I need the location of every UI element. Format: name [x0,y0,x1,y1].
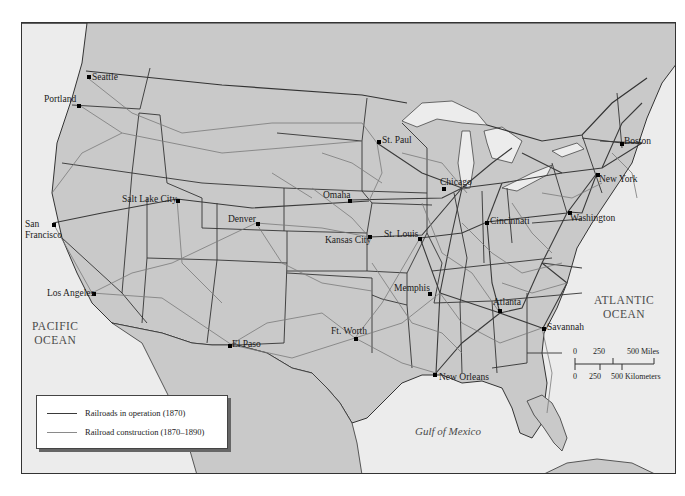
city-label-washington: Washington [570,214,615,224]
city-label-cincinnati: Cincinnati [490,217,530,227]
city-dot-st-paul [377,140,381,144]
legend-label: Railroad construction (1870–1890) [85,427,204,437]
city-label-kansas-city: Kansas City [325,236,371,246]
city-label-st-louis: St. Louis [384,230,418,240]
cuba-land [542,459,657,474]
atlantic-line1: ATLANTIC [594,293,654,307]
city-label-st-paul: St. Paul [382,136,412,146]
pacific-line1: PACIFIC [32,319,79,333]
city-label-el-paso: El Paso [232,340,261,350]
city-dot-seattle [87,75,91,79]
city-label-denver: Denver [228,215,256,225]
gulf-of-mexico-label: Gulf of Mexico [415,425,481,437]
sf-line1: San [25,219,62,230]
scale-miles-250: 250 [593,347,605,356]
city-label-new-york: New York [599,175,638,185]
city-label-new-orleans: New Orleans [439,373,489,383]
city-dot-ft-worth [354,337,358,341]
pacific-line2: OCEAN [32,333,79,347]
city-label-los-angeles: Los Angeles [47,289,94,299]
scale-km-500: 500 Kilometers [611,372,661,381]
scale-km-0: 0 [573,372,577,381]
atlantic-line2: OCEAN [594,307,654,321]
city-dot-cincinnati [485,221,489,225]
scale-ruler-icon [567,357,676,371]
legend-label: Railroads in operation (1870) [85,408,185,418]
city-label-boston: Boston [624,137,651,147]
city-dot-savannah [542,327,546,331]
city-label-portland: Portland [44,95,76,105]
legend-line-light-icon [47,432,77,433]
city-label-memphis: Memphis [394,284,430,294]
pacific-ocean-label: PACIFIC OCEAN [32,319,79,348]
city-label-omaha: Omaha [323,191,350,201]
scale-bar: 0 250 500 Miles 0 250 500 Kilometers [567,347,676,387]
map-legend: Railroads in operation (1870) Railroad c… [36,395,228,449]
city-dot-st-louis [418,237,422,241]
legend-item-railroads-1870-1890: Railroad construction (1870–1890) [47,427,204,437]
scale-miles-500: 500 Miles [627,347,659,356]
legend-item-railroads-1870: Railroads in operation (1870) [47,408,185,418]
sf-line2: Francisco [25,230,62,241]
scale-miles-0: 0 [573,347,577,356]
map-frame: PACIFIC OCEAN ATLANTIC OCEAN Gulf of Mex… [21,22,676,474]
city-label-san-francisco: San Francisco [25,219,62,241]
city-dot-denver [256,222,260,226]
city-label-savannah: Savannah [547,323,584,333]
city-dot-atlanta [498,309,502,313]
city-label-chicago: Chicago [440,178,472,188]
city-dot-new-orleans [433,373,437,377]
city-dot-chicago [442,187,446,191]
legend-line-dark-icon [47,413,77,414]
city-label-atlanta: Atlanta [493,298,521,308]
city-dot-portland [77,104,81,108]
city-label-salt-lake-city: Salt Lake City [122,195,177,205]
scale-km-250: 250 [589,372,601,381]
atlantic-ocean-label: ATLANTIC OCEAN [594,293,654,322]
city-label-seattle: Seattle [92,73,118,83]
city-label-ft-worth: Ft. Worth [331,327,367,337]
